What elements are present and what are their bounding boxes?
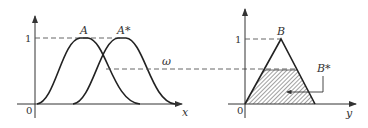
B-star-label: B* [316,62,331,75]
clipped-output-B-star-region [245,70,315,104]
x-axis-label: x [182,106,189,119]
curve-A-label: A [79,24,88,37]
origin-label-left: 0 [26,105,32,116]
y-axis-label: y [345,107,353,120]
fuzzy-inference-diagram: 1 0 A A* ω x 1 0 B B* y [0,0,368,128]
origin-label-right: 0 [237,105,243,116]
triangle-B-label: B [276,25,285,38]
y-tick-1-right: 1 [235,34,241,45]
omega-label: ω [162,55,171,68]
y-tick-1-left: 1 [25,33,31,44]
right-panel: 1 0 B B* y [228,9,356,120]
membership-curve-A [37,38,140,104]
curve-A-star-label: A* [116,24,131,37]
